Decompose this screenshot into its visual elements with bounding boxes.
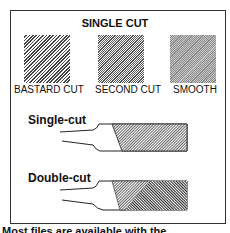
file-illustrations <box>0 0 230 233</box>
caption-text: Most files are available with the <box>2 225 166 233</box>
single-cut-file-icon <box>60 124 187 151</box>
double-cut-file-icon <box>60 181 187 210</box>
